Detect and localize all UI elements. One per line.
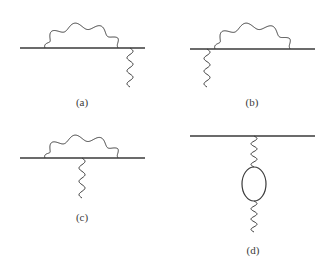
- photon-loop-arc: [45, 135, 119, 158]
- photon-line-top: [251, 136, 257, 167]
- photon-loop-arc: [45, 23, 119, 48]
- panel-d-label: (d): [247, 244, 260, 256]
- photon-line-bottom: [251, 201, 257, 232]
- panel-b-diagram: [190, 23, 315, 87]
- panel-d-diagram: [190, 136, 315, 232]
- external-photon-line: [79, 158, 85, 198]
- photon-loop-arc: [215, 23, 291, 49]
- panel-a-label: (a): [76, 96, 88, 108]
- external-photon-line: [127, 48, 133, 87]
- panel-a-diagram: [20, 23, 145, 87]
- external-photon-line: [204, 49, 210, 87]
- feynman-diagram-canvas: [0, 0, 335, 261]
- panel-c-label: (c): [76, 211, 88, 223]
- panel-c-diagram: [20, 135, 145, 198]
- panel-b-label: (b): [246, 96, 259, 108]
- fermion-loop: [242, 167, 266, 201]
